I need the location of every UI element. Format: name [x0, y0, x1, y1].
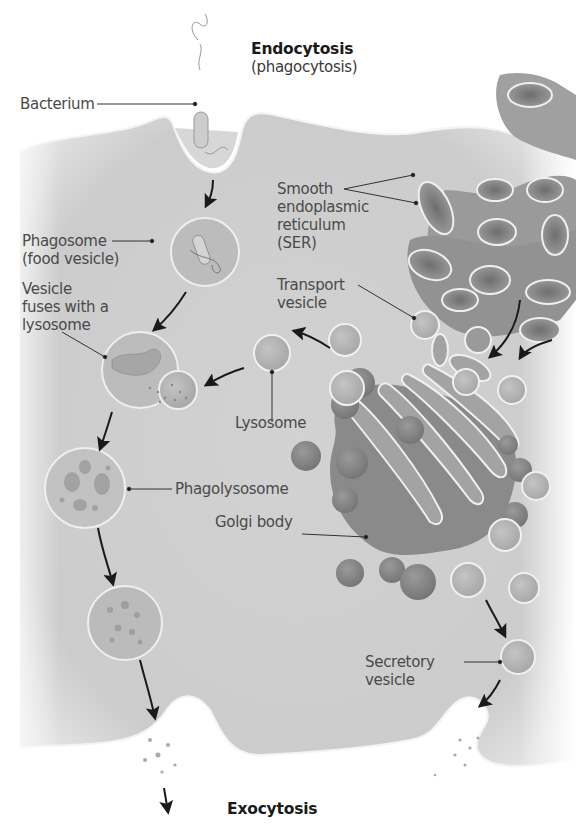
label-phagolysosome: Phagolysosome — [175, 480, 288, 498]
label-ser: Smooth endoplasmic reticulum (SER) — [277, 180, 369, 252]
lysosome — [254, 335, 290, 371]
label-vesicle-fuses: Vesicle fuses with a lysosome — [22, 280, 109, 334]
label-lysosome: Lysosome — [235, 414, 306, 432]
waste-vesicle — [88, 586, 162, 660]
phagosome — [171, 218, 239, 286]
label-phagosome: Phagosome (food vesicle) — [22, 232, 119, 268]
endocytosis-title: Endocytosis — [251, 40, 353, 58]
phagolysosome — [45, 448, 125, 528]
phagocytosis-subtitle: (phagocytosis) — [251, 58, 357, 76]
exocytosis-title: Exocytosis — [227, 800, 317, 818]
label-transport-vesicle: Transport vesicle — [277, 276, 345, 312]
secretory-vesicle — [501, 640, 535, 674]
label-golgi-body: Golgi body — [215, 513, 293, 531]
label-secretory-vesicle: Secretory vesicle — [365, 653, 434, 689]
smooth-er — [405, 73, 576, 342]
label-bacterium: Bacterium — [20, 95, 95, 113]
cell-diagram — [0, 0, 576, 824]
